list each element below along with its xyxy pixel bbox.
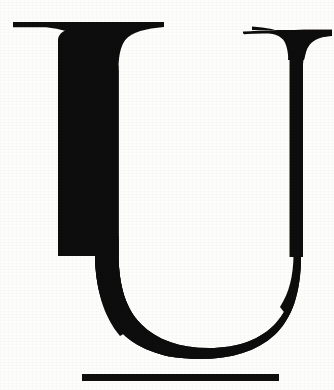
- drop-cap-u: [0, 0, 334, 390]
- horizontal-rule: [82, 374, 279, 381]
- u-right-stem-core: [290, 52, 304, 257]
- capital-letter-u-glyph: [0, 0, 334, 390]
- u-left-stem-core: [58, 66, 119, 256]
- u-right-serif-wedge: [252, 30, 332, 64]
- page-canvas: [0, 0, 334, 390]
- u-bowl: [58, 240, 301, 359]
- glyph-ink-group: [13, 22, 332, 359]
